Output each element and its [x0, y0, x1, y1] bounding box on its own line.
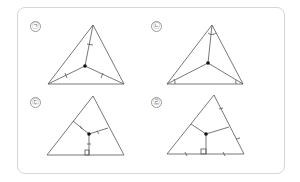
center-point-b: [206, 61, 210, 65]
triangle-diagrams: [0, 0, 300, 182]
center-point-c: [87, 132, 91, 136]
figure-b-triangle: [167, 25, 243, 84]
figure-d-triangle: [167, 95, 244, 156]
figure-a-triangle: [48, 25, 124, 84]
center-point-a: [83, 64, 87, 68]
center-point-d: [204, 132, 208, 136]
figure-c-triangle: [47, 96, 124, 155]
